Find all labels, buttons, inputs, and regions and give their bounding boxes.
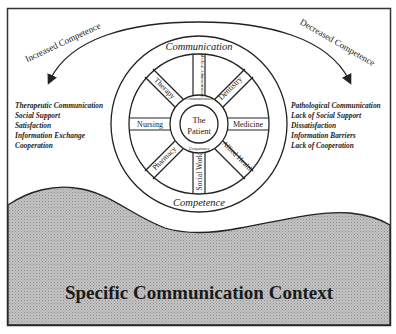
outer-ring-bottom-label: Competence [173, 197, 225, 208]
negative-outcome: Lack of Cooperation [291, 141, 381, 151]
context-label: Specific Communication Context [7, 282, 391, 304]
positive-outcome: Satisfaction [15, 121, 103, 131]
hub-ring-top-label: Communication [186, 96, 214, 101]
negative-outcome: Lack of Social Support [291, 111, 381, 121]
outer-ring-top-label: Communication [165, 41, 232, 52]
spoke-label-nursing: Nursing [137, 120, 163, 129]
negative-outcomes-list: Pathological Communication Lack of Socia… [291, 101, 381, 151]
positive-outcome: Cooperation [15, 141, 103, 151]
negative-outcome: Pathological Communication [291, 101, 381, 111]
spoke-label-medicine: Medicine [233, 120, 264, 129]
negative-outcome: Information Barriers [291, 131, 381, 141]
positive-outcome: Information Exchange [15, 131, 103, 141]
positive-outcome: Social Support [15, 111, 103, 121]
spoke-label-social-work: Social Work [195, 153, 204, 190]
patient-label-line1: The [192, 115, 205, 125]
negative-outcome: Dissatisfaction [291, 121, 381, 131]
positive-outcome: Therapeutic Communication [15, 101, 103, 111]
positive-outcomes-list: Therapeutic Communication Social Support… [15, 101, 103, 151]
spoke-label-medical-administration: Medical Administration [200, 54, 205, 98]
hub-ring-bottom-label: Competence [189, 146, 210, 151]
patient-label-line2: Patient [187, 126, 211, 136]
